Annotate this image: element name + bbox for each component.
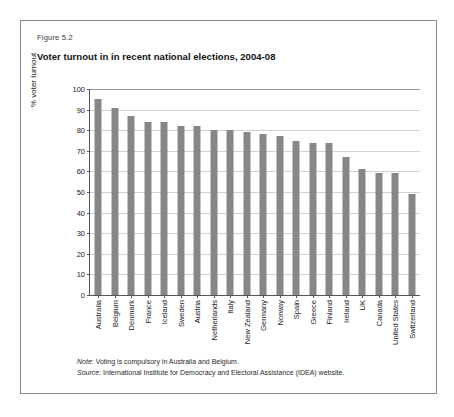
x-tick-mark (148, 295, 149, 298)
source-line: Source: International Institute for Demo… (77, 368, 427, 379)
bar (210, 130, 217, 295)
bar (194, 126, 201, 295)
x-tick-label: Sweden (176, 300, 185, 327)
x-tick-mark (181, 295, 182, 298)
bar-group: Iceland (156, 89, 173, 295)
x-tick-mark (263, 295, 264, 298)
bar (128, 116, 135, 295)
bar-series: AustraliaBelgiumDenmarkFranceIcelandSwed… (90, 89, 420, 295)
bar (392, 173, 399, 295)
x-tick-mark (280, 295, 281, 298)
figure-frame: Figure 5.2 Voter turnout in in recent na… (20, 20, 437, 394)
x-tick-label: Denmark (127, 300, 136, 330)
bar (111, 108, 118, 295)
y-tick-label: 10 (77, 270, 85, 279)
bar (276, 136, 283, 295)
x-tick-mark (395, 295, 396, 298)
bar (293, 141, 300, 296)
note-line: Note: Voting is compulsory in Australia … (77, 357, 427, 368)
bar (260, 134, 267, 295)
x-tick-label: Spain (292, 300, 301, 319)
x-tick-label: Greece (308, 300, 317, 325)
bar-group: Finland (321, 89, 338, 295)
x-tick-label: Italy (226, 300, 235, 314)
bar-group: Germany (255, 89, 272, 295)
bar-group: Italy (222, 89, 239, 295)
figure-title: Voter turnout in in recent national elec… (37, 51, 276, 62)
bar-group: United States (387, 89, 404, 295)
x-tick-label: Belgium (110, 300, 119, 327)
bar (177, 126, 184, 295)
x-tick-label: UK (358, 300, 367, 310)
bar (408, 194, 415, 295)
bar (309, 143, 316, 295)
x-tick-mark (379, 295, 380, 298)
x-tick-mark (214, 295, 215, 298)
x-tick-label: Australia (94, 300, 103, 329)
x-tick-label: Iceland (160, 300, 169, 324)
y-tick-label: 80 (77, 126, 85, 135)
x-tick-mark (115, 295, 116, 298)
figure-number: Figure 5.2 (37, 33, 73, 42)
bar-group: Norway (272, 89, 289, 295)
y-tick-mark (87, 295, 90, 296)
x-tick-label: Ireland (341, 300, 350, 323)
y-axis-title: % voter turnout (29, 25, 38, 135)
bar-group: Spain (288, 89, 305, 295)
note-label: Note: (77, 358, 94, 365)
bar-chart: % voter turnout 0102030405060708090100 A… (33, 79, 425, 324)
bar-group: Ireland (338, 89, 355, 295)
x-tick-label: Norway (275, 300, 284, 325)
x-tick-mark (197, 295, 198, 298)
y-tick-label: 40 (77, 208, 85, 217)
y-tick-label: 0 (81, 291, 85, 300)
x-tick-mark (313, 295, 314, 298)
bar-group: Greece (305, 89, 322, 295)
bar (243, 132, 250, 295)
x-tick-label: Netherlands (209, 300, 218, 340)
x-tick-mark (164, 295, 165, 298)
bar (359, 169, 366, 295)
note-text: Voting is compulsory in Australia and Be… (96, 358, 239, 365)
footnotes: Note: Voting is compulsory in Australia … (77, 357, 427, 379)
x-tick-label: Austria (193, 300, 202, 323)
bar-group: Australia (90, 89, 107, 295)
x-tick-label: Finland (325, 300, 334, 325)
x-tick-label: New Zealand (242, 300, 251, 344)
bar-group: Switzerland (404, 89, 421, 295)
bar (375, 173, 382, 295)
bar (144, 122, 151, 295)
bar (161, 122, 168, 295)
x-tick-mark (296, 295, 297, 298)
bar-group: Canada (371, 89, 388, 295)
bar-group: UK (354, 89, 371, 295)
source-text: International Institute for Democracy an… (103, 369, 344, 376)
y-tick-label: 20 (77, 249, 85, 258)
x-tick-mark (362, 295, 363, 298)
bar-group: Belgium (107, 89, 124, 295)
x-tick-label: Switzerland (407, 300, 416, 339)
y-tick-label: 50 (77, 188, 85, 197)
x-tick-mark (230, 295, 231, 298)
y-tick-label: 70 (77, 146, 85, 155)
x-tick-mark (247, 295, 248, 298)
x-tick-mark (329, 295, 330, 298)
plot-area: 0102030405060708090100 AustraliaBelgiumD… (89, 89, 420, 296)
x-tick-label: France (143, 300, 152, 323)
source-label: Source: (77, 369, 101, 376)
x-tick-mark (346, 295, 347, 298)
x-tick-label: Germany (259, 300, 268, 331)
bar-group: France (140, 89, 157, 295)
bar-group: Sweden (173, 89, 190, 295)
bar (227, 130, 234, 295)
bar-group: New Zealand (239, 89, 256, 295)
y-tick-label: 60 (77, 167, 85, 176)
bar-group: Denmark (123, 89, 140, 295)
x-tick-mark (412, 295, 413, 298)
y-tick-label: 30 (77, 229, 85, 238)
bar (95, 99, 102, 295)
x-tick-mark (131, 295, 132, 298)
x-tick-label: United States (391, 300, 400, 345)
bar-group: Netherlands (206, 89, 223, 295)
x-tick-label: Canada (374, 300, 383, 326)
